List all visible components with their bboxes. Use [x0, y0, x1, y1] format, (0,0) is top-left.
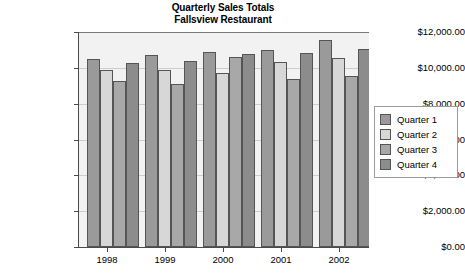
- y-axis-label-10000: $10,000.00: [391, 63, 465, 73]
- chart-title-line-1: Quarterly Sales Totals: [78, 2, 368, 14]
- x-axis-label-2000: 2000: [212, 254, 233, 265]
- chart-container: Quarterly Sales Totals Fallsview Restaur…: [0, 0, 465, 279]
- y-axis-label-2000: $2,000.00: [391, 206, 465, 216]
- bar-group-2002: [319, 32, 369, 247]
- bar-1999-quarter-2[interactable]: [158, 70, 171, 247]
- x-axis-label-1998: 1998: [96, 254, 117, 265]
- legend-label-quarter-4: Quarter 4: [397, 159, 437, 170]
- y-axis-label-12000: $12,000.00: [391, 27, 465, 37]
- bar-group-2000: [203, 32, 257, 247]
- bar-2001-quarter-1[interactable]: [261, 50, 274, 247]
- legend-swatch-quarter-1-icon: [380, 114, 391, 125]
- legend-item-quarter-4[interactable]: Quarter 4: [380, 157, 453, 172]
- bar-1998-quarter-1[interactable]: [87, 59, 100, 247]
- x-axis-tick-1998: [107, 248, 108, 252]
- x-axis-tick-2001: [281, 248, 282, 252]
- bar-2002-quarter-1[interactable]: [319, 40, 332, 247]
- x-axis-tick-2000: [223, 248, 224, 252]
- legend-swatch-quarter-2-icon: [380, 129, 391, 140]
- legend-item-quarter-3[interactable]: Quarter 3: [380, 142, 453, 157]
- y-axis-label-0: $0.00: [391, 242, 465, 252]
- bar-2001-quarter-3[interactable]: [287, 79, 300, 247]
- bar-2000-quarter-2[interactable]: [216, 73, 229, 247]
- legend-swatch-quarter-4-icon: [380, 159, 391, 170]
- bar-2002-quarter-2[interactable]: [332, 58, 345, 247]
- bar-1999-quarter-3[interactable]: [171, 84, 184, 247]
- bar-2001-quarter-2[interactable]: [274, 62, 287, 247]
- legend-item-quarter-1[interactable]: Quarter 1: [380, 112, 453, 127]
- x-axis-label-2002: 2002: [328, 254, 349, 265]
- legend-label-quarter-3: Quarter 3: [397, 144, 437, 155]
- bar-group-2001: [261, 32, 315, 247]
- bar-2000-quarter-1[interactable]: [203, 52, 216, 247]
- bar-1998-quarter-4[interactable]: [126, 63, 139, 247]
- bar-1998-quarter-2[interactable]: [100, 70, 113, 247]
- bar-group-1998: [87, 32, 141, 247]
- plot-area: [78, 32, 369, 248]
- bar-1998-quarter-3[interactable]: [113, 81, 126, 247]
- bar-1999-quarter-1[interactable]: [145, 55, 158, 247]
- chart-subtitle: Fallsview Restaurant: [78, 14, 368, 26]
- chart-legend: Quarter 1 Quarter 2 Quarter 3 Quarter 4: [374, 106, 458, 178]
- legend-item-quarter-2[interactable]: Quarter 2: [380, 127, 453, 142]
- bar-2001-quarter-4[interactable]: [300, 53, 313, 247]
- bar-2000-quarter-3[interactable]: [229, 57, 242, 247]
- x-axis-label-1999: 1999: [154, 254, 175, 265]
- legend-swatch-quarter-3-icon: [380, 144, 391, 155]
- bar-1999-quarter-4[interactable]: [184, 61, 197, 247]
- legend-label-quarter-2: Quarter 2: [397, 129, 437, 140]
- x-axis-tick-2002: [339, 248, 340, 252]
- chart-title: Quarterly Sales Totals Fallsview Restaur…: [78, 2, 368, 26]
- x-axis-label-2001: 2001: [270, 254, 291, 265]
- bar-group-1999: [145, 32, 199, 247]
- bar-2002-quarter-3[interactable]: [345, 76, 358, 247]
- legend-label-quarter-1: Quarter 1: [397, 114, 437, 125]
- plot-inner: [79, 32, 369, 247]
- x-axis-tick-1999: [165, 248, 166, 252]
- bar-2000-quarter-4[interactable]: [242, 54, 255, 247]
- bar-2002-quarter-4[interactable]: [358, 49, 369, 247]
